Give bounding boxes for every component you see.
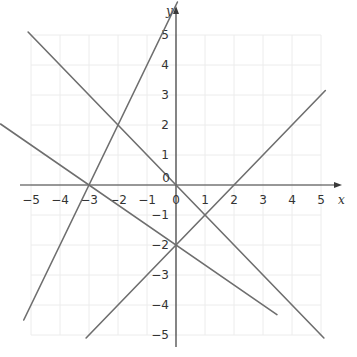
x-tick-label: −3 [80, 193, 98, 207]
x-tick-label: 1 [201, 193, 209, 207]
x-tick-label: −5 [22, 193, 40, 207]
y-tick-label: −4 [151, 298, 169, 312]
y-tick-label: 4 [161, 58, 169, 72]
x-tick-label: 0 [172, 193, 180, 207]
x-tick-label: −4 [51, 193, 69, 207]
axes [20, 6, 342, 347]
series-line-3 [86, 91, 325, 339]
series-lines [1, 2, 326, 338]
x-tick-label: 4 [288, 193, 296, 207]
y-tick-label: 2 [161, 118, 169, 132]
x-tick-label: −1 [138, 193, 156, 207]
coordinate-plane: −5−4−3−2−1012345−5−4−3−2−112345 x y 0 [0, 0, 357, 357]
x-tick-label: 2 [230, 193, 238, 207]
y-axis-label: y [165, 4, 173, 18]
y-tick-label: −1 [151, 208, 169, 222]
y-tick-label: 1 [161, 148, 169, 162]
y-tick-label: −2 [151, 238, 169, 252]
x-axis-arrow-icon [334, 182, 342, 188]
origin-label: 0 [162, 171, 170, 185]
y-tick-label: −3 [151, 268, 169, 282]
y-tick-label: 5 [161, 28, 169, 42]
x-axis-label: x [338, 193, 345, 207]
x-tick-label: 5 [317, 193, 325, 207]
x-tick-label: 3 [259, 193, 267, 207]
series-line-4 [1, 124, 277, 315]
y-tick-label: 3 [161, 88, 169, 102]
y-tick-label: −5 [151, 328, 169, 342]
